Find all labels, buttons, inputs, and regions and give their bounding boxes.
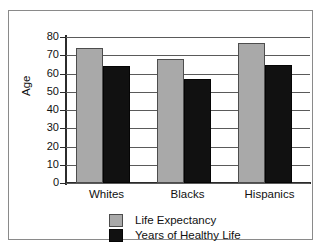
y-tick-mark (60, 92, 65, 93)
legend-item: Years of Healthy Life (109, 228, 279, 243)
legend-swatch-icon (109, 229, 123, 242)
chart-legend: Life ExpectancyYears of Healthy Life (109, 213, 279, 243)
bar-blacks-years-of-healthy-life (184, 79, 211, 183)
gridline (66, 183, 310, 184)
y-axis-tick-labels: 80706050403020100 (31, 37, 59, 183)
y-tick-label: 30 (33, 122, 59, 133)
y-tick-mark (60, 110, 65, 111)
plot-area (66, 37, 310, 183)
y-tick-label: 0 (33, 177, 59, 188)
bar-hispanics-years-of-healthy-life (265, 65, 292, 183)
x-category-label: Hispanics (229, 187, 310, 201)
y-tick-label: 20 (33, 141, 59, 152)
legend-item: Life Expectancy (109, 213, 279, 228)
bar-whites-life-expectancy (76, 48, 103, 183)
y-tick-mark (60, 74, 65, 75)
y-tick-mark (60, 128, 65, 129)
y-tick-label: 40 (33, 104, 59, 115)
x-axis-category-labels: WhitesBlacksHispanics (66, 187, 310, 203)
y-tick-label: 10 (33, 159, 59, 170)
y-tick-mark (60, 147, 65, 148)
y-tick-mark (60, 37, 65, 38)
chart-frame: Age 80706050403020100 WhitesBlacksHispan… (8, 10, 313, 240)
bar-blacks-life-expectancy (157, 59, 184, 183)
x-category-label: Blacks (147, 187, 228, 201)
y-tick-label: 80 (33, 31, 59, 42)
y-tick-mark (60, 183, 65, 184)
gridline (66, 37, 310, 38)
y-tick-label: 70 (33, 49, 59, 60)
legend-label: Years of Healthy Life (135, 229, 241, 242)
y-tick-label: 60 (33, 68, 59, 79)
chart-figure: Age 80706050403020100 WhitesBlacksHispan… (0, 0, 321, 250)
x-category-label: Whites (66, 187, 147, 201)
y-tick-label: 50 (33, 86, 59, 97)
legend-label: Life Expectancy (135, 214, 216, 227)
y-tick-mark (60, 55, 65, 56)
bar-hispanics-life-expectancy (238, 43, 265, 183)
y-tick-mark (60, 165, 65, 166)
bar-whites-years-of-healthy-life (103, 66, 130, 183)
legend-swatch-icon (109, 214, 123, 227)
